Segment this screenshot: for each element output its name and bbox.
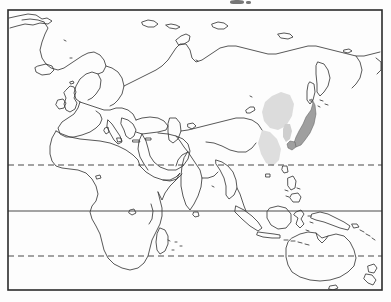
world-map-canvas: [0, 0, 391, 302]
world-map-figure: [0, 0, 391, 302]
map-background: [0, 0, 391, 302]
